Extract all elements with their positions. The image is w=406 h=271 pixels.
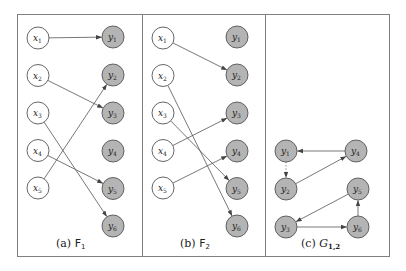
caption-b: (b) F2 bbox=[180, 237, 210, 251]
node-x2: x2 bbox=[152, 65, 174, 87]
node-y2: y2 bbox=[226, 64, 248, 86]
edge-arrow bbox=[171, 121, 229, 180]
node-y4: y4 bbox=[226, 140, 248, 162]
node-y6: y6 bbox=[347, 216, 369, 238]
edge-arrow bbox=[48, 80, 103, 107]
node-x1: x1 bbox=[152, 27, 174, 49]
node-y3: y3 bbox=[275, 216, 297, 238]
panel-b-bipartite-f2: x1x2x3x4x5y1y2y3y4y5y6 bbox=[152, 26, 248, 237]
node-x1: x1 bbox=[27, 27, 49, 49]
node-x5: x5 bbox=[152, 177, 174, 199]
node-y1: y1 bbox=[102, 26, 124, 48]
node-x3: x3 bbox=[27, 102, 49, 124]
edge-arrow bbox=[49, 37, 102, 38]
node-y3: y3 bbox=[102, 102, 124, 124]
edge-arrow bbox=[44, 85, 107, 179]
edge-arrow bbox=[296, 156, 346, 183]
caption-a: (a) F1 bbox=[56, 237, 85, 251]
node-y2: y2 bbox=[102, 64, 124, 86]
caption-c: (c) G1,2 bbox=[301, 237, 340, 251]
node-y1: y1 bbox=[275, 140, 297, 162]
figure-canvas: x1x2x3x4x5y1y2y3y4y5y6 x1x2x3x4x5y1y2y3y… bbox=[0, 0, 406, 271]
node-y1: y1 bbox=[226, 26, 248, 48]
edge-arrow bbox=[173, 118, 227, 145]
node-y5: y5 bbox=[102, 178, 124, 200]
node-y5: y5 bbox=[347, 178, 369, 200]
node-y6: y6 bbox=[102, 215, 124, 237]
node-y5: y5 bbox=[226, 178, 248, 200]
node-x3: x3 bbox=[152, 102, 174, 124]
panel-c-graph-g12: y1y4y2y5y3y6 bbox=[275, 140, 369, 238]
node-x4: x4 bbox=[27, 140, 49, 162]
panel-a-bipartite-f1: x1x2x3x4x5y1y2y3y4y5y6 bbox=[27, 26, 124, 237]
node-y3: y3 bbox=[226, 102, 248, 124]
node-x2: x2 bbox=[27, 65, 49, 87]
node-y6: y6 bbox=[226, 215, 248, 237]
edge-arrow bbox=[48, 155, 103, 183]
edge-arrow bbox=[173, 43, 227, 70]
node-y4: y4 bbox=[102, 140, 124, 162]
node-x4: x4 bbox=[152, 140, 174, 162]
node-y2: y2 bbox=[275, 178, 297, 200]
node-y4: y4 bbox=[345, 140, 367, 162]
edge-arrow bbox=[296, 194, 348, 221]
node-x5: x5 bbox=[27, 177, 49, 199]
